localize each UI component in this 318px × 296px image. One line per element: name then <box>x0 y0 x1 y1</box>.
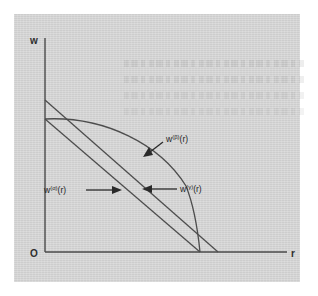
x-axis-label: r <box>291 248 295 259</box>
label-w-gamma: w(γ)(r) <box>179 184 202 194</box>
arrow-alpha-head <box>112 186 122 194</box>
label-w-alpha: w(α)(r) <box>43 185 66 195</box>
curves-group <box>45 100 218 252</box>
annotation-w-alpha: w(α)(r) <box>43 185 122 195</box>
annotation-w-gamma: w(γ)(r) <box>142 184 202 194</box>
figure-root: w r O w(α)(r) w(β)(r) w(γ)(r) <box>0 0 318 296</box>
label-w-beta-superscript: (β) <box>172 134 179 140</box>
label-w-gamma-superscript: (γ) <box>186 184 193 190</box>
annotation-w-beta: w(β)(r) <box>143 134 188 157</box>
arrow-beta-head <box>143 147 153 157</box>
label-w-beta: w(β)(r) <box>165 134 188 144</box>
label-w-gamma-argument: (r) <box>193 184 202 194</box>
origin-label: O <box>30 248 38 259</box>
y-axis-label: w <box>29 35 38 46</box>
label-w-beta-argument: (r) <box>180 134 189 144</box>
arrow-beta-shaft <box>150 142 163 152</box>
label-w-alpha-argument: (r) <box>58 185 67 195</box>
label-w-alpha-superscript: (α) <box>50 185 57 191</box>
curve-w-alpha <box>45 100 218 252</box>
axes-group <box>45 38 287 252</box>
wage-profile-plot: w r O w(α)(r) w(β)(r) w(γ)(r) <box>0 0 318 296</box>
